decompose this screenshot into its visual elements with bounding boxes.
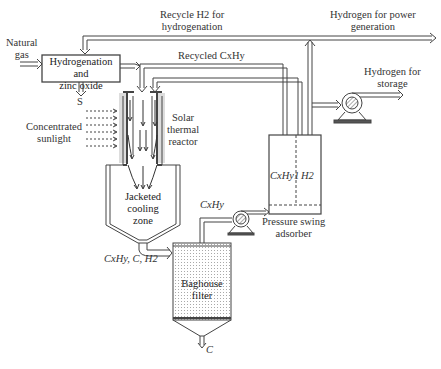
h2-power-label: Hydrogen for power generation <box>330 9 416 33</box>
psa-label: Pressure swing adsorber <box>262 216 325 240</box>
hydrogenation-label: Hydrogenation and zinc oxide <box>42 56 120 92</box>
storage-compressor <box>334 90 403 123</box>
h2-storage-branch <box>312 100 341 110</box>
sulfur-label: S <box>77 96 83 108</box>
sunlight-arrowheads <box>113 109 117 148</box>
hydrogenation-outlet-line <box>120 62 140 70</box>
h2-power-line <box>262 33 436 43</box>
reactor-outlet-label: CxHy, C, H2 <box>104 253 158 265</box>
sunlight-arrows <box>86 111 116 146</box>
baghouse-to-psa-line <box>200 218 232 243</box>
psa-left-label: CxHy1 <box>270 170 299 182</box>
h2-storage-label: Hydrogen for storage <box>364 66 421 90</box>
solar-reactor-label: Solar thermal reactor <box>167 112 199 148</box>
h2-riser <box>305 40 315 135</box>
recycled-cxhy-label: Recycled CxHy <box>178 50 245 62</box>
carbon-label: C <box>206 344 213 356</box>
baghouse-gas-label: CxHy <box>200 199 224 211</box>
psa-right-label: H2 <box>301 170 314 182</box>
cooling-zone-label: Jacketed cooling zone <box>110 191 176 227</box>
natural-gas-label: Natural gas <box>6 37 38 61</box>
process-flow-diagram: Natural gas Hydrogenation and zinc oxide… <box>0 0 441 369</box>
reactor-flow-arrows <box>128 100 157 189</box>
baghouse-label: Baghouse filter <box>173 278 231 302</box>
recycle-h2-label: Recycle H2 for hydrogenation <box>160 9 224 33</box>
solar-reactor <box>119 92 165 165</box>
sunlight-label: Concentrated sunlight <box>26 121 82 145</box>
